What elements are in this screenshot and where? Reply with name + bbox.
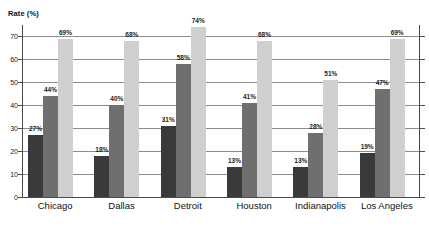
y-tick-mark-right (420, 128, 425, 129)
bar-group: 13%41%68% (221, 25, 287, 197)
y-tick-mark (18, 174, 22, 175)
x-tick-label: Dallas (88, 200, 154, 211)
bar-group-bars: 13%28%51% (293, 25, 338, 197)
y-tick-label: 20 (10, 148, 18, 155)
bar[interactable]: 18% (94, 156, 109, 197)
y-tick-mark (18, 197, 22, 198)
bar[interactable]: 27% (28, 135, 43, 197)
bar[interactable]: 58% (176, 64, 191, 197)
bar[interactable]: 74% (191, 27, 206, 197)
x-axis-line (22, 197, 420, 198)
bar[interactable]: 28% (308, 133, 323, 197)
y-tick-label: 50 (10, 79, 18, 86)
bar-group-bars: 27%44%69% (28, 25, 73, 197)
bar-group-bars: 18%40%68% (94, 25, 139, 197)
y-tick-mark-right (420, 105, 425, 106)
bar-group: 18%40%68% (88, 25, 154, 197)
y-tick-mark-right (420, 82, 425, 83)
bar[interactable]: 47% (375, 89, 390, 197)
bar-group-bars: 13%41%68% (227, 25, 272, 197)
bar-value-label: 69% (391, 29, 404, 36)
bar-group: 13%28%51% (287, 25, 353, 197)
bar-value-label: 41% (243, 93, 256, 100)
x-tick-label: Chicago (22, 200, 88, 211)
bar[interactable]: 13% (293, 167, 308, 197)
bar-value-label: 13% (294, 157, 307, 164)
y-tick-mark-right (420, 59, 425, 60)
bar[interactable]: 13% (227, 167, 242, 197)
bar-value-label: 19% (361, 143, 374, 150)
bar-group: 31%58%74% (155, 25, 221, 197)
x-tick-label: Detroit (155, 200, 221, 211)
y-tick-mark (18, 82, 22, 83)
bar-value-label: 58% (177, 54, 190, 61)
bar[interactable]: 69% (390, 39, 405, 197)
bar-groups: 27%44%69%18%40%68%31%58%74%13%41%68%13%2… (22, 25, 420, 197)
y-tick-mark-right (420, 174, 425, 175)
bar-value-label: 69% (59, 29, 72, 36)
y-tick-label: 30 (10, 125, 18, 132)
y-tick-mark (18, 151, 22, 152)
y-axis-title: Rate (%) (8, 9, 39, 18)
bar-value-label: 44% (44, 86, 57, 93)
y-tick-mark (18, 128, 22, 129)
x-tick-label: Houston (221, 200, 287, 211)
x-tick-label: Indianapolis (287, 200, 353, 211)
y-tick-mark (18, 105, 22, 106)
y-tick-label: 10 (10, 171, 18, 178)
y-tick-mark-right (420, 151, 425, 152)
bar[interactable]: 68% (257, 41, 272, 197)
bar[interactable]: 68% (124, 41, 139, 197)
bar[interactable]: 44% (43, 96, 58, 197)
bar-group-bars: 31%58%74% (161, 25, 206, 197)
bar-group-bars: 19%47%69% (360, 25, 405, 197)
bar-value-label: 51% (324, 70, 337, 77)
bar[interactable]: 19% (360, 153, 375, 197)
bar[interactable]: 41% (242, 103, 257, 197)
y-tick-mark-right (420, 36, 425, 37)
x-axis-labels: ChicagoDallasDetroitHoustonIndianapolisL… (22, 200, 420, 211)
bar[interactable]: 51% (323, 80, 338, 197)
bar-value-label: 18% (95, 146, 108, 153)
y-tick-mark-right (420, 197, 425, 198)
bar-value-label: 68% (258, 31, 271, 38)
bar-value-label: 74% (192, 17, 205, 24)
bar-group: 19%47%69% (354, 25, 420, 197)
bar-value-label: 40% (110, 95, 123, 102)
y-tick-mark (18, 36, 22, 37)
y-tick-label: 40 (10, 102, 18, 109)
bar-value-label: 27% (29, 125, 42, 132)
bar-value-label: 28% (309, 123, 322, 130)
bar-value-label: 31% (162, 116, 175, 123)
y-tick-label: 70 (10, 33, 18, 40)
bar-value-label: 13% (228, 157, 241, 164)
bar[interactable]: 31% (161, 126, 176, 197)
bar[interactable]: 40% (109, 105, 124, 197)
bar-chart: Rate (%) 27%44%69%18%40%68%31%58%74%13%4… (0, 0, 429, 230)
bar-value-label: 47% (376, 79, 389, 86)
y-tick-label: 60 (10, 56, 18, 63)
y-tick-mark (18, 59, 22, 60)
x-tick-label: Los Angeles (354, 200, 420, 211)
bar-group: 27%44%69% (22, 25, 88, 197)
bar[interactable]: 69% (58, 39, 73, 197)
bar-value-label: 68% (125, 31, 138, 38)
